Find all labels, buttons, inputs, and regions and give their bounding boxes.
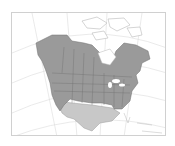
map-frame [11,12,166,136]
range-map [12,13,166,136]
arctic-islands [82,17,142,40]
range-secondary [57,101,120,131]
